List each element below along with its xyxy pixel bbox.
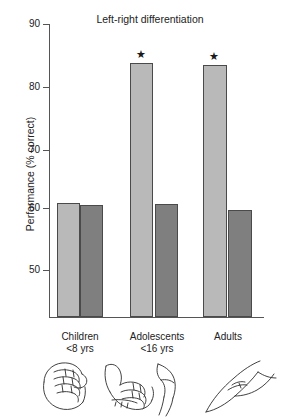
y-tick-label-90: 90 <box>16 19 40 29</box>
group-label-adolescents-name: Adolescents <box>130 331 184 342</box>
y-axis-label: Performance (% correct) <box>24 74 36 274</box>
bar-children-light <box>57 203 80 317</box>
bar-adolescents-light <box>130 63 153 317</box>
x-axis-line <box>49 317 264 318</box>
significance-star-adults: ★ <box>202 51 226 62</box>
significance-star-adolescents: ★ <box>129 49 153 60</box>
chart-figure: Left-right differentiation Performance (… <box>0 0 293 419</box>
y-tick-label-70: 70 <box>16 145 40 155</box>
group-label-adults: Adults <box>188 331 268 343</box>
bar-children-dark <box>80 205 103 317</box>
y-tick-label-60: 60 <box>16 203 40 213</box>
y-tick-mark-60 <box>43 208 49 209</box>
group-label-adults-name: Adults <box>214 331 242 342</box>
bar-adults-dark <box>228 210 252 317</box>
y-tick-mark-80 <box>43 87 49 88</box>
bar-adults-light <box>203 65 227 317</box>
y-axis-line <box>49 24 50 318</box>
hand-drawings <box>30 352 293 419</box>
y-tick-label-80: 80 <box>16 82 40 92</box>
y-tick-mark-50 <box>43 270 49 271</box>
hand-drawing-adult <box>206 361 276 412</box>
y-tick-label-50: 50 <box>16 265 40 275</box>
hand-drawing-child <box>44 363 87 410</box>
bar-adolescents-dark <box>155 204 178 317</box>
y-tick-mark-70 <box>43 150 49 151</box>
chart-title: Left-right differentiation <box>60 13 240 25</box>
hand-drawing-adolescent-arm <box>157 364 175 416</box>
y-tick-mark-90 <box>43 24 49 25</box>
group-label-children-name: Children <box>61 331 98 342</box>
hand-drawing-adolescent <box>105 364 153 409</box>
